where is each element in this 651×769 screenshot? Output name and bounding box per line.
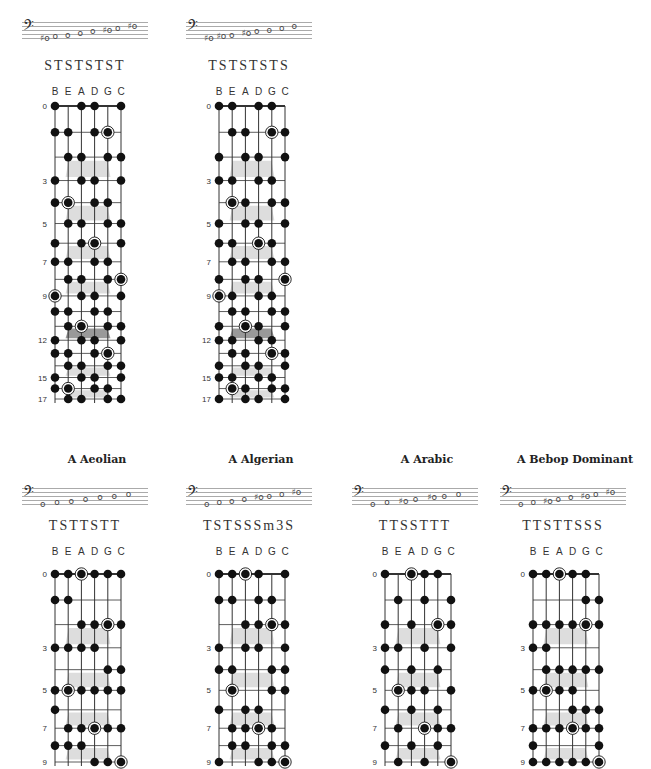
staff-note: ♯o xyxy=(606,488,616,497)
scale-note-dot xyxy=(228,258,237,267)
staff-note: o xyxy=(556,495,562,504)
staff-note: o xyxy=(292,22,298,31)
scale-note-dot xyxy=(542,758,551,767)
scale-note-dot xyxy=(595,706,604,715)
staff-note: o xyxy=(111,492,117,501)
staff-note: o xyxy=(69,497,75,506)
string-name: A xyxy=(75,86,87,97)
scale-note-dot xyxy=(215,176,224,185)
fret-number: 7 xyxy=(207,258,212,267)
scale-note-dot xyxy=(215,275,224,284)
scale-note-dot xyxy=(254,176,263,185)
fret-number: 7 xyxy=(521,724,526,733)
string-name: C xyxy=(115,86,127,97)
scale-note-dot xyxy=(215,336,224,345)
staff-note: ♯o xyxy=(128,22,138,31)
scale-note-dot xyxy=(241,395,250,404)
staff-note: o xyxy=(83,495,89,504)
scale-note-dot xyxy=(254,395,263,404)
scale-note-dot xyxy=(254,322,263,331)
scale-note-dot xyxy=(254,219,263,228)
scale-note-dot xyxy=(568,686,577,695)
scale-note-dot xyxy=(268,307,277,316)
scale-note-dot xyxy=(281,198,290,207)
scale-title: A Algerian xyxy=(186,453,336,466)
string-name: G xyxy=(580,546,592,557)
scale-note-dot xyxy=(254,336,263,345)
scale-note-dot xyxy=(281,258,290,267)
scale-note-dot xyxy=(542,643,551,652)
staff-note: o xyxy=(279,490,285,499)
scale-note-dot xyxy=(254,292,263,301)
scale-note-dot xyxy=(268,176,277,185)
root-note-dot xyxy=(268,128,277,137)
staff-note: o xyxy=(593,490,599,499)
string-name: A xyxy=(553,546,565,557)
string-name: C xyxy=(279,86,291,97)
staff-note: ♯o xyxy=(254,493,264,502)
root-note-dot xyxy=(228,198,237,207)
root-note-dot xyxy=(542,686,551,695)
scale-note-dot xyxy=(555,620,564,629)
fret-number: 3 xyxy=(207,177,212,186)
string-name: G xyxy=(266,546,278,557)
staff-note: o xyxy=(384,498,390,507)
root-note-dot xyxy=(254,239,263,248)
scale-note-dot xyxy=(281,349,290,358)
string-name: C xyxy=(115,546,127,557)
string-name: A xyxy=(405,546,417,557)
scale-note-dot xyxy=(568,706,577,715)
scale-note-dot xyxy=(555,686,564,695)
staff-note: o xyxy=(53,32,59,41)
staff-note: o xyxy=(413,495,419,504)
string-name: G xyxy=(102,86,114,97)
string-name: E xyxy=(226,546,238,557)
string-name: D xyxy=(89,86,101,97)
scale-note-dot xyxy=(281,395,290,404)
root-note-dot xyxy=(281,275,290,284)
scale-title: A Aeolian xyxy=(22,453,172,466)
interval-formula: STSTSTST xyxy=(10,58,160,74)
scale-note-dot xyxy=(241,128,250,137)
interval-formula: TTSTTSSS xyxy=(488,518,638,534)
scale-title: A Arabic xyxy=(352,453,502,466)
scale-note-dot xyxy=(268,292,277,301)
scale-note-dot xyxy=(555,724,564,733)
staff-note: o xyxy=(267,26,273,35)
scale-note-dot xyxy=(529,724,538,733)
scale-note-dot xyxy=(254,275,263,284)
staff-note: o xyxy=(229,31,235,40)
staff-note: o xyxy=(518,500,524,509)
scale-note-dot xyxy=(268,373,277,382)
staff-note: o xyxy=(279,24,285,33)
string-name: E xyxy=(62,86,74,97)
scale-note-dot xyxy=(281,361,290,370)
scale-note-dot xyxy=(595,596,604,605)
string-name: E xyxy=(62,546,74,557)
interval-formula: TSTTSTT xyxy=(10,518,160,534)
scale-note-dot xyxy=(268,258,277,267)
scale-note-dot xyxy=(268,239,277,248)
scale-note-dot xyxy=(268,384,277,393)
scale-note-dot xyxy=(268,198,277,207)
scale-note-dot xyxy=(529,686,538,695)
scale-note-dot xyxy=(582,665,591,674)
scale-note-dot xyxy=(582,706,591,715)
string-name: B xyxy=(379,546,391,557)
staff-note: o xyxy=(217,498,223,507)
root-note-dot xyxy=(568,724,577,733)
root-note-dot xyxy=(595,758,604,767)
music-staff: 𝄢♯o♯oo♯ooooo xyxy=(186,22,312,38)
scale-note-dot xyxy=(582,758,591,767)
fret-number: 0 xyxy=(521,570,526,579)
scale-note-dot xyxy=(241,349,250,358)
scale-note-dot xyxy=(281,153,290,162)
staff-note: o xyxy=(568,493,574,502)
scale-note-dot xyxy=(595,665,604,674)
scale-note-dot xyxy=(529,643,538,652)
string-name: D xyxy=(567,546,579,557)
string-name: B xyxy=(49,546,61,557)
music-staff: 𝄢♯ooooo♯oo♯o xyxy=(22,22,148,38)
staff-note: o xyxy=(54,498,60,507)
string-name: G xyxy=(102,546,114,557)
